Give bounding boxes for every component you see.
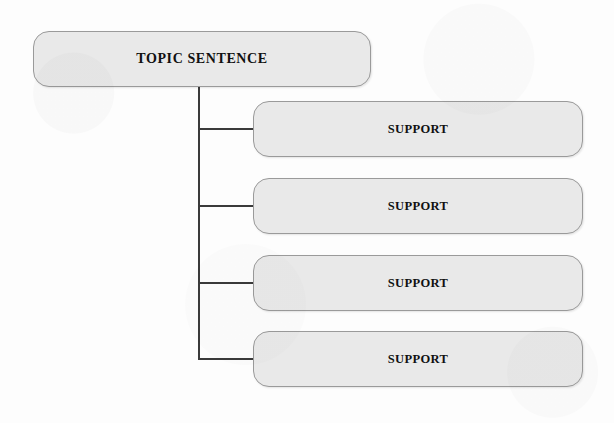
- support-node-2: SUPPORT: [253, 178, 583, 234]
- support-label-4: SUPPORT: [388, 352, 449, 367]
- topic-sentence-node: TOPIC SENTENCE: [33, 31, 371, 87]
- support-label-2: SUPPORT: [388, 199, 449, 214]
- diagram-canvas: TOPIC SENTENCE SUPPORT SUPPORT SUPPORT S…: [0, 0, 614, 423]
- support-label-1: SUPPORT: [388, 122, 449, 137]
- support-node-1: SUPPORT: [253, 101, 583, 157]
- topic-sentence-label: TOPIC SENTENCE: [136, 51, 267, 67]
- support-label-3: SUPPORT: [388, 276, 449, 291]
- support-node-4: SUPPORT: [253, 331, 583, 387]
- support-node-3: SUPPORT: [253, 255, 583, 311]
